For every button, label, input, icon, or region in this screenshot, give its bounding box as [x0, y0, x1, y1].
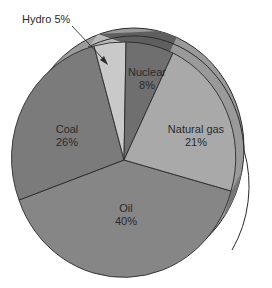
oil-label: Oil: [119, 202, 132, 214]
nuclear-label: Nuclear: [128, 66, 166, 78]
oil-value: 40%: [115, 215, 137, 227]
hydro-callout-label: Hydro 5%: [22, 13, 71, 25]
coal-value: 26%: [56, 136, 78, 148]
nuclear-value: 8%: [139, 79, 155, 91]
coal-label: Coal: [56, 123, 79, 135]
pie-face: [12, 42, 236, 277]
natural-gas-label: Natural gas: [168, 123, 225, 135]
natural-gas-value: 21%: [185, 136, 207, 148]
pie-chart: Hydro 5% Nuclear 8% Natural gas 21% Coal…: [0, 0, 272, 288]
